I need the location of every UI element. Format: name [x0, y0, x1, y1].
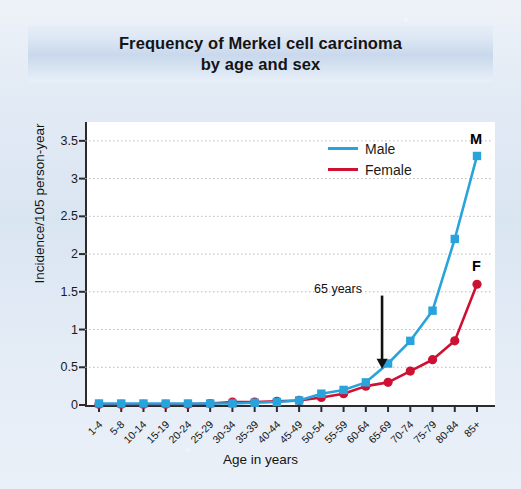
- y-tick-label: 2: [71, 247, 78, 261]
- x-tick-label: 10-14: [121, 418, 148, 445]
- y-tick-label: 0: [71, 398, 78, 412]
- x-tick-label: 80-84: [433, 418, 460, 445]
- figure-container: Frequency of Merkel cell carcinoma by ag…: [0, 0, 521, 489]
- annotation-female-endpoint: F: [472, 258, 481, 274]
- y-tick-label: 3.5: [61, 134, 78, 148]
- annotation-male-endpoint: M: [470, 131, 482, 147]
- y-tick-label: 2.5: [61, 209, 78, 223]
- y-tick-label: 3: [71, 172, 78, 186]
- chart-title-banner: Frequency of Merkel cell carcinoma by ag…: [28, 26, 493, 82]
- chart-title-line-1: Frequency of Merkel cell carcinoma: [119, 33, 402, 54]
- y-axis-tick-labels: 00.511.522.533.5: [42, 122, 78, 405]
- y-axis-label: Incidence/105 person-year: [32, 69, 47, 339]
- x-tick-label: 30-34: [210, 418, 237, 445]
- age-65-arrow: [377, 296, 388, 369]
- series-male: [95, 152, 481, 408]
- legend-swatch-female-icon: [328, 168, 358, 171]
- x-tick-label: 70-74: [388, 418, 415, 445]
- x-tick-label: 45-49: [277, 418, 304, 445]
- gridlines-group: [85, 141, 493, 367]
- x-tick-label: 25-29: [188, 418, 215, 445]
- chart-legend: Male Female: [328, 138, 412, 180]
- legend-item-male: Male: [328, 138, 412, 159]
- x-tick-label: 35-39: [233, 418, 260, 445]
- x-tick-label: 20-24: [166, 418, 193, 445]
- x-axis-tick-labels: 1-45-810-1415-1920-2425-2930-3435-3940-4…: [85, 409, 493, 451]
- x-axis-label: Age in years: [0, 452, 521, 467]
- legend-swatch-male-icon: [328, 147, 358, 150]
- legend-label-male: Male: [365, 141, 395, 157]
- x-tick-label: 60-64: [344, 418, 371, 445]
- y-tick-label: 1.5: [61, 285, 78, 299]
- y-tick-label: 0.5: [61, 360, 78, 374]
- x-tick-label: 40-44: [255, 418, 282, 445]
- annotation-65-years: 65 years: [314, 282, 362, 296]
- y-tick-marks-group: [79, 141, 85, 405]
- x-tick-label: 75-79: [411, 418, 438, 445]
- y-tick-label: 1: [71, 323, 78, 337]
- x-tick-label: 85+: [461, 418, 482, 439]
- x-tick-label: 65-69: [366, 418, 393, 445]
- legend-label-female: Female: [365, 162, 412, 178]
- chart-plot-svg: [85, 122, 493, 405]
- x-tick-label: 55-59: [322, 418, 349, 445]
- series-female: [94, 280, 481, 409]
- x-tick-label: 50-54: [299, 418, 326, 445]
- x-tick-label: 15-19: [144, 418, 171, 445]
- x-tick-label: 1-4: [85, 418, 104, 437]
- chart-title-line-2: by age and sex: [201, 54, 321, 75]
- legend-item-female: Female: [328, 159, 412, 180]
